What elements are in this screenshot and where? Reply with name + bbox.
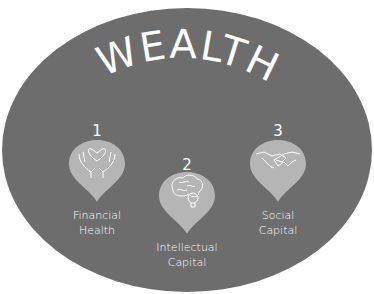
item-1-label-line1: Financial <box>57 208 137 223</box>
item-1-label: Financial Health <box>57 208 137 238</box>
item-3-number: 3 <box>263 122 293 140</box>
item-3-label-line1: Social <box>238 208 318 223</box>
item-2-label-line2: Capital <box>147 255 227 270</box>
item-2-label: Intellectual Capital <box>147 240 227 270</box>
item-1-label-line2: Health <box>57 223 137 238</box>
item-2-number: 2 <box>172 156 202 174</box>
item-3-label: Social Capital <box>238 208 318 238</box>
item-3-label-line2: Capital <box>238 223 318 238</box>
wealth-diagram: WEALTH <box>0 0 374 294</box>
item-1-number: 1 <box>82 122 112 140</box>
item-2-label-line1: Intellectual <box>147 240 227 255</box>
